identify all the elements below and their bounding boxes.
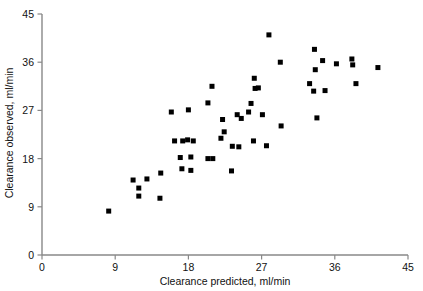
data-point-marker — [323, 88, 328, 93]
axis-group — [42, 14, 408, 255]
data-point-marker — [205, 156, 210, 161]
data-point-marker — [246, 110, 251, 115]
x-tick-label: 27 — [256, 261, 268, 273]
data-point-marker — [222, 129, 227, 134]
chart-canvas: 0918273645 0918273645 Clearance predicte… — [0, 0, 423, 291]
data-point-marker — [220, 117, 225, 122]
data-point-marker — [260, 112, 265, 117]
x-tick-label: 18 — [183, 261, 195, 273]
data-points-group — [106, 32, 380, 213]
data-point-marker — [314, 115, 319, 120]
data-point-marker — [136, 194, 141, 199]
y-tick-label: 18 — [22, 153, 34, 165]
data-point-marker — [179, 166, 184, 171]
data-point-marker — [169, 110, 174, 115]
data-point-marker — [191, 138, 196, 143]
data-point-marker — [210, 156, 215, 161]
y-tick-label: 27 — [22, 104, 34, 116]
data-point-marker — [157, 196, 162, 201]
data-point-marker — [158, 171, 163, 176]
data-point-marker — [252, 76, 257, 81]
y-axis-label: Clearance observed, ml/min — [3, 67, 15, 198]
data-point-marker — [236, 144, 241, 149]
y-tick-label: 36 — [22, 56, 34, 68]
data-point-marker — [229, 168, 234, 173]
data-point-marker — [185, 137, 190, 142]
data-point-marker — [256, 85, 261, 90]
y-tick-label: 9 — [28, 201, 34, 213]
y-tick-label: 45 — [22, 8, 34, 20]
data-point-marker — [180, 138, 185, 143]
scatter-chart-figure: 0918273645 0918273645 Clearance predicte… — [0, 0, 423, 291]
data-point-marker — [186, 107, 191, 112]
data-point-marker — [375, 65, 380, 70]
data-point-marker — [205, 100, 210, 105]
data-point-marker — [249, 101, 254, 106]
data-point-marker — [178, 155, 183, 160]
data-point-marker — [312, 47, 317, 52]
data-point-marker — [279, 123, 284, 128]
x-tick-label: 45 — [402, 261, 414, 273]
data-point-marker — [188, 154, 193, 159]
data-point-marker — [188, 168, 193, 173]
data-point-marker — [353, 81, 358, 86]
data-point-marker — [209, 84, 214, 89]
data-point-marker — [230, 144, 235, 149]
y-tick-label: 0 — [28, 249, 34, 261]
data-point-marker — [350, 62, 355, 67]
y-tick-labels: 0918273645 — [22, 8, 34, 261]
x-tick-labels: 0918273645 — [39, 261, 414, 273]
data-point-marker — [311, 89, 316, 94]
data-point-marker — [264, 143, 269, 148]
data-point-marker — [218, 136, 223, 141]
data-point-marker — [106, 209, 111, 214]
data-point-marker — [349, 56, 354, 61]
data-point-marker — [239, 116, 244, 121]
x-tick-label: 9 — [112, 261, 118, 273]
x-tick-label: 36 — [329, 261, 341, 273]
x-axis-label: Clearance predicted, ml/min — [160, 275, 291, 287]
data-point-marker — [131, 178, 136, 183]
data-point-marker — [334, 61, 339, 66]
data-point-marker — [307, 81, 312, 86]
data-point-marker — [313, 67, 318, 72]
data-point-marker — [251, 138, 256, 143]
data-point-marker — [136, 186, 141, 191]
data-point-marker — [266, 32, 271, 37]
x-tick-label: 0 — [39, 261, 45, 273]
data-point-marker — [144, 176, 149, 181]
data-point-marker — [172, 138, 177, 143]
data-point-marker — [320, 58, 325, 63]
data-point-marker — [278, 60, 283, 65]
